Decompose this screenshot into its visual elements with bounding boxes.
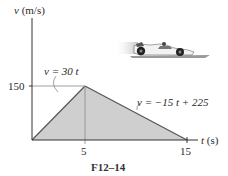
equation-v-30t: v = 30 t bbox=[44, 66, 79, 77]
leader-eq1 bbox=[53, 76, 58, 92]
y-axis-label: v (m/s) bbox=[14, 5, 45, 16]
figure-f12-14: v (m/s) 150 v = 30 t v = −15 t + 225 5 1… bbox=[0, 0, 228, 176]
equation-v-minus15t-225: v = −15 t + 225 bbox=[137, 97, 208, 108]
xtick-label-5: 5 bbox=[81, 146, 87, 157]
velocity-time-chart bbox=[0, 0, 228, 176]
area-under-curve bbox=[32, 86, 187, 140]
x-axis-unit: (s) bbox=[204, 134, 218, 146]
y-axis-unit: (m/s) bbox=[19, 4, 45, 16]
figure-caption: F12–14 bbox=[91, 161, 125, 173]
x-axis-label: t (s) bbox=[201, 135, 218, 146]
xtick-label-15: 15 bbox=[180, 146, 191, 157]
ytick-label-150: 150 bbox=[8, 81, 25, 92]
race-car-icon bbox=[114, 42, 210, 58]
